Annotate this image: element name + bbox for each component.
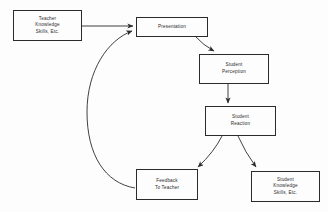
node-presentation: Presentation bbox=[136, 17, 208, 37]
edge-presentation-to-perception bbox=[196, 37, 214, 51]
node-teacher-line-3: Skills, Etc. bbox=[36, 29, 59, 36]
node-student-reaction-line-2: Reaction bbox=[231, 121, 251, 128]
node-student-reaction: Student Reaction bbox=[205, 106, 276, 136]
node-student-knowledge-line-3: Skills, Etc. bbox=[274, 190, 297, 197]
node-feedback-to-teacher-line-2: To Teacher bbox=[155, 185, 179, 192]
node-student-knowledge: Student Knowledge Skills, Etc. bbox=[251, 171, 320, 202]
diagram-canvas: Teacher Knowledge Skills, Etc. Presentat… bbox=[0, 0, 328, 212]
node-presentation-line-1: Presentation bbox=[158, 24, 186, 31]
node-student-perception: Student Perception bbox=[199, 54, 269, 84]
node-student-reaction-line-1: Student bbox=[232, 114, 249, 121]
node-teacher: Teacher Knowledge Skills, Etc. bbox=[13, 10, 82, 41]
edge-reaction-to-feedback bbox=[198, 136, 222, 167]
edge-feedback-to-presentation bbox=[87, 31, 135, 188]
node-feedback-to-teacher: Feedback To Teacher bbox=[136, 169, 198, 200]
edge-reaction-to-knowledge bbox=[238, 136, 256, 167]
node-teacher-line-2: Knowledge bbox=[35, 22, 59, 29]
node-student-knowledge-line-1: Student bbox=[277, 177, 294, 184]
node-teacher-line-1: Teacher bbox=[39, 16, 57, 23]
node-student-knowledge-line-2: Knowledge bbox=[273, 183, 297, 190]
node-feedback-to-teacher-line-1: Feedback bbox=[156, 178, 178, 185]
node-student-perception-line-1: Student bbox=[225, 62, 242, 69]
node-student-perception-line-2: Perception bbox=[222, 69, 246, 76]
